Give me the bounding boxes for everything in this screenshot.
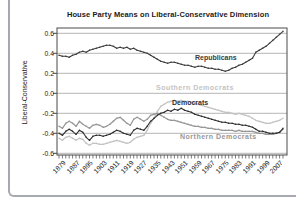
series-label-southern-democrats: Southern Democrats <box>156 84 234 91</box>
chart-title: House Party Means on Liberal-Conservativ… <box>40 10 296 19</box>
figure-screenshot: { "figure": { "title": "House Party Mean… <box>0 0 296 203</box>
y-tick-label: 0.2 <box>32 70 54 77</box>
y-tick-label: 0.4 <box>32 50 54 57</box>
y-tick-label: -0.4 <box>32 130 54 137</box>
series-northern-democrats <box>58 113 284 136</box>
x-axis-ticks <box>59 155 283 159</box>
y-axis-label: Liberal-Conservative <box>21 53 28 133</box>
series-label-republicans: Republicans <box>195 54 237 61</box>
series-label-democrats: Democrats <box>172 99 208 106</box>
series-label-northern-democrats: Northern Democrats <box>180 133 257 140</box>
y-tick-label: -0.2 <box>32 110 54 117</box>
y-tick-label: 0.6 <box>32 30 54 37</box>
y-tick-label: -0.6 <box>32 150 54 157</box>
y-tick-label: 0.0 <box>32 90 54 97</box>
series-republicans <box>58 31 284 73</box>
